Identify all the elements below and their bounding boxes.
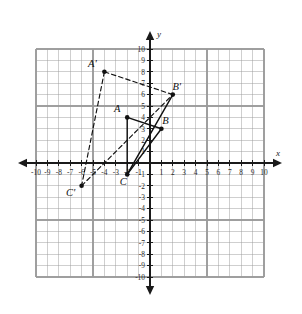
y-tick-label: -7 [139,239,145,248]
vertex-label-C: C [120,176,128,187]
x-tick-label: -8 [56,168,62,177]
y-tick-label: -4 [139,204,145,213]
y-tick-label: 7 [141,79,145,88]
vertex-point-B-prime [171,92,176,97]
x-tick-label: 7 [228,168,232,177]
y-tick-label: -5 [139,216,145,225]
y-tick-label: 4 [141,113,145,122]
y-tick-label: 10 [138,45,146,54]
y-tick-label: -9 [139,261,145,270]
x-axis-label: x [275,148,280,158]
y-tick-label: -10 [135,273,145,282]
axis-lines [18,31,282,295]
vertex-label-C-prime: C' [66,187,76,198]
y-tick-label: -1 [139,170,145,179]
x-tick-label: 8 [239,168,243,177]
x-tick-label: -4 [101,168,107,177]
x-tick-label: 4 [194,168,198,177]
y-tick-label: 6 [141,90,145,99]
x-tick-label: -9 [44,168,50,177]
y-tick-label: -2 [139,182,145,191]
x-tick-label: 2 [171,168,175,177]
vertex-label-A-prime: A' [87,58,97,69]
vertex-point-C-prime [79,184,84,189]
vertex-label-A: A [113,103,121,114]
y-tick-label: -6 [139,227,145,236]
y-axis-label: y [156,29,161,39]
x-tick-label: 9 [251,168,255,177]
y-tick-label: 8 [141,68,145,77]
coordinate-plane-figure: -10-9-8-7-6-5-4-3-2-11234567891010987654… [0,0,302,314]
vertex-label-B-prime: B' [172,81,181,92]
x-tick-label: 10 [260,168,268,177]
y-tick-label: 5 [141,102,145,111]
y-tick-label: -8 [139,250,145,259]
y-tick-label: 9 [141,56,145,65]
x-tick-label: 6 [217,168,221,177]
x-tick-label: 3 [182,168,186,177]
x-tick-label: -10 [31,168,41,177]
vertex-point-B [159,127,164,132]
x-tick-label: -3 [113,168,119,177]
x-tick-label: 1 [160,168,164,177]
vertex-point-A-prime [102,70,107,75]
vertex-label-B: B [162,115,169,126]
vertex-point-A [125,115,130,120]
coordinate-plane-svg: -10-9-8-7-6-5-4-3-2-11234567891010987654… [0,0,302,314]
x-tick-label: 5 [205,168,209,177]
y-tick-label: -3 [139,193,145,202]
x-tick-label: -7 [67,168,73,177]
